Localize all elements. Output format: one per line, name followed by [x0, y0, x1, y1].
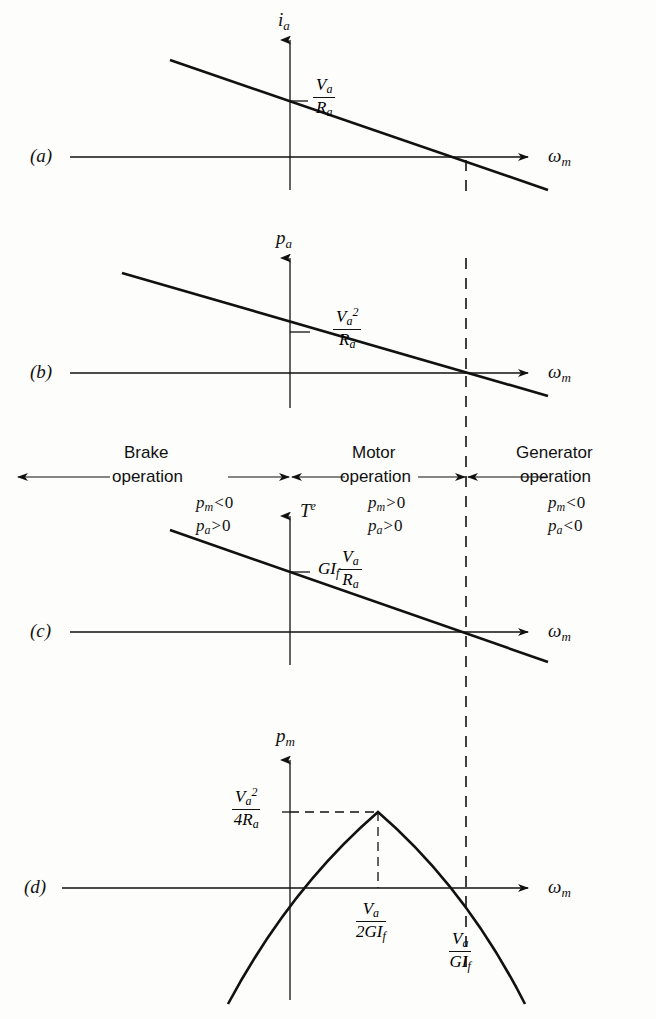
- motor-cond1-var: p: [368, 493, 377, 512]
- brake-cond1-op: <: [213, 493, 225, 512]
- panel-d-x-axis-subscript: m: [561, 885, 570, 900]
- panel-a-x-axis-label: ωm: [548, 146, 571, 168]
- panel-c-y-axis-label: Te: [300, 500, 316, 520]
- panel-a-letter: (a): [30, 146, 52, 165]
- panel-a-graph: [70, 40, 548, 190]
- region-motor-condition-1: pm>0: [368, 494, 405, 513]
- panel-b-x-axis-label: ωm: [548, 362, 571, 384]
- brake-cond2-op: >: [211, 516, 223, 535]
- brake-cond2-var: p: [196, 516, 205, 535]
- generator-cond1-sub: m: [557, 500, 566, 514]
- panel-d-peak-num-sup: 2: [251, 785, 257, 799]
- panel-b-intercept-label: Va2 Ra: [333, 306, 361, 351]
- panel-d-peak-den: 4R: [234, 810, 253, 829]
- panel-b-intercept-den: R: [339, 330, 349, 349]
- brake-cond1-var: p: [196, 493, 205, 512]
- panel-d-letter: (d): [24, 877, 46, 896]
- generator-cond2-sub: a: [557, 523, 563, 537]
- brake-cond1-num: 0: [225, 493, 234, 512]
- panel-c-x-axis-symbol: ω: [548, 620, 561, 641]
- panel-d-peak-x-den: 2GI: [356, 922, 382, 941]
- region-brake-line1: Brake: [124, 444, 168, 461]
- motor-cond2-sub: a: [377, 523, 383, 537]
- panel-d-peak-den-sub: a: [253, 817, 259, 831]
- panel-b-graph: [70, 258, 548, 408]
- panel-c-intercept-den: R: [342, 570, 352, 589]
- brake-cond1-sub: m: [205, 500, 214, 514]
- panel-d-peak-num: V: [235, 787, 245, 806]
- panel-d-y-axis-subscript: m: [286, 734, 295, 749]
- panel-d-peak-x-num: V: [363, 899, 373, 918]
- panel-c-x-axis-subscript: m: [561, 629, 570, 644]
- panel-b-y-axis-symbol: p: [276, 227, 286, 248]
- panel-d-zero-x-num-sub: a: [462, 936, 468, 950]
- motor-cond1-num: 0: [397, 493, 406, 512]
- panel-d-y-axis-symbol: p: [276, 725, 286, 746]
- panel-a-intercept-den: R: [316, 98, 326, 117]
- region-brake-condition-1: pm<0: [196, 494, 233, 513]
- panel-c-y-axis-symbol: T: [300, 500, 311, 521]
- motor-cond1-sub: m: [377, 500, 386, 514]
- panel-a-x-axis-subscript: m: [561, 154, 570, 169]
- panel-a-curve: [170, 60, 548, 190]
- panel-c-x-axis-label: ωm: [548, 621, 571, 643]
- generator-cond1-op: <: [565, 493, 577, 512]
- panel-d-peak-x-num-sub: a: [373, 906, 379, 920]
- panel-a-intercept-den-sub: a: [326, 105, 332, 119]
- panel-c-intercept-num: V: [342, 547, 352, 566]
- panel-d-zero-x-den: GI: [450, 952, 468, 971]
- panel-b-y-axis-label: pa: [276, 228, 292, 250]
- panel-a-intercept-num-sub: a: [326, 82, 332, 96]
- panel-d-peak-x-den-sub: f: [382, 929, 385, 943]
- region-generator-line2: operation: [520, 468, 591, 485]
- panel-c-graph: [70, 516, 548, 665]
- region-brake-condition-2: pa>0: [196, 517, 231, 536]
- motor-cond2-var: p: [368, 516, 377, 535]
- brake-cond2-num: 0: [222, 516, 231, 535]
- generator-cond2-var: p: [548, 516, 557, 535]
- panel-d-x-axis-label: ωm: [548, 877, 571, 899]
- panel-d-zero-x-num: V: [452, 929, 462, 948]
- panel-a-intercept-label: Va Ra: [313, 76, 335, 119]
- generator-cond1-num: 0: [577, 493, 586, 512]
- panel-b-intercept-num-sup: 2: [352, 305, 358, 319]
- region-motor-condition-2: pa>0: [368, 517, 403, 536]
- panel-b-x-axis-subscript: m: [561, 370, 570, 385]
- panel-a-y-axis-label: ia: [278, 10, 290, 32]
- panel-a-x-axis-symbol: ω: [548, 145, 561, 166]
- panel-b-y-axis-subscript: a: [286, 236, 293, 251]
- region-motor-line1: Motor: [352, 444, 395, 461]
- panel-c-letter: (c): [30, 621, 51, 640]
- panel-d-zero-x-label: Va GIf: [449, 930, 471, 973]
- panel-c-intercept-den-sub: a: [353, 577, 359, 591]
- panel-a-y-axis-subscript: a: [283, 18, 290, 33]
- figure-canvas: (a) ia ωm Va Ra (b) pa ωm Va2 Ra Brake o…: [0, 0, 656, 1019]
- region-motor-line2: operation: [340, 468, 411, 485]
- brake-cond2-sub: a: [205, 523, 211, 537]
- generator-cond2-num: 0: [574, 516, 583, 535]
- panel-d-peak-value-label: Va2 4Ra: [232, 786, 260, 831]
- panel-b-intercept-den-sub: a: [349, 337, 355, 351]
- region-brake-line2: operation: [112, 468, 183, 485]
- panel-c-intercept-num-sub: a: [353, 554, 359, 568]
- panel-d-y-axis-label: pm: [276, 726, 295, 748]
- region-generator-line1: Generator: [516, 444, 593, 461]
- panel-c-y-axis-superscript: e: [311, 499, 316, 513]
- generator-cond2-op: <: [563, 516, 575, 535]
- panel-c-intercept-prefix: GI: [318, 559, 336, 578]
- generator-cond1-var: p: [548, 493, 557, 512]
- panel-a-intercept-num: V: [316, 75, 326, 94]
- motor-cond1-op: >: [385, 493, 397, 512]
- panel-b-letter: (b): [30, 362, 52, 381]
- panel-c-intercept-label: GIf Va Ra: [318, 548, 362, 591]
- motor-cond2-num: 0: [394, 516, 403, 535]
- panel-d-peak-x-label: Va 2GIf: [356, 900, 386, 943]
- panel-b-x-axis-symbol: ω: [548, 361, 561, 382]
- region-generator-condition-1: pm<0: [548, 494, 585, 513]
- panel-b-intercept-num: V: [336, 307, 346, 326]
- panel-d-zero-x-den-sub: f: [468, 959, 471, 973]
- panel-d-x-axis-symbol: ω: [548, 876, 561, 897]
- region-generator-condition-2: pa<0: [548, 517, 583, 536]
- motor-cond2-op: >: [383, 516, 395, 535]
